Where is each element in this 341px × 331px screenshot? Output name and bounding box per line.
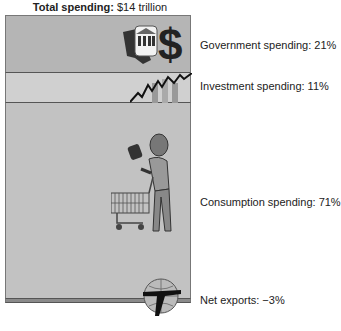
- segment-investment: [5, 73, 191, 103]
- label-investment: Investment spending: 11%: [200, 80, 329, 93]
- rising-chart-icon: [130, 73, 192, 103]
- government-dollar-icon: $: [121, 20, 191, 70]
- chart-title: Total spending: $14 trillion: [0, 0, 200, 14]
- shopper-cart-icon: [111, 127, 181, 237]
- segment-consumption: [5, 103, 191, 298]
- label-net-exports: Net exports: −3%: [200, 294, 285, 307]
- globe-airplane-icon: [141, 274, 183, 318]
- segment-government: $: [5, 15, 191, 73]
- label-consumption: Consumption spending: 71%: [200, 196, 341, 209]
- title-label: Total spending:: [33, 1, 114, 13]
- svg-text:$: $: [158, 20, 182, 69]
- label-government: Government spending: 21%: [200, 39, 336, 52]
- title-value: $14 trillion: [117, 1, 167, 13]
